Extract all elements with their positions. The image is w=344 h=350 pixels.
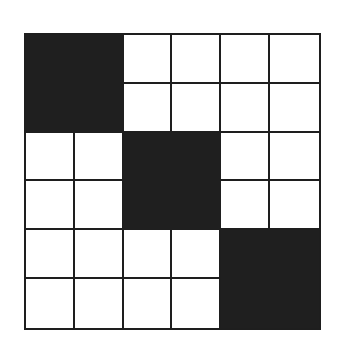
grid-cell	[26, 181, 75, 230]
grid-cell	[172, 35, 221, 84]
grid-cell	[270, 84, 319, 133]
grid-cell	[124, 35, 173, 84]
grid-cell	[221, 181, 270, 230]
grid-cell	[124, 279, 173, 328]
grid-cell	[26, 279, 75, 328]
filled-block	[124, 133, 222, 231]
grid-cell	[124, 230, 173, 279]
grid-cell	[221, 84, 270, 133]
grid-cell	[221, 133, 270, 182]
grid-cell	[75, 230, 124, 279]
grid-cell	[270, 133, 319, 182]
grid-cell	[172, 230, 221, 279]
grid-cell	[26, 133, 75, 182]
grid-cell	[124, 84, 173, 133]
grid-cell	[75, 181, 124, 230]
diagram-canvas	[0, 0, 344, 350]
grid-6x6	[24, 33, 321, 330]
grid-cell	[221, 35, 270, 84]
filled-block	[26, 35, 124, 133]
grid-cell	[270, 35, 319, 84]
grid-cell	[172, 84, 221, 133]
filled-block	[221, 230, 319, 328]
grid-cell	[75, 279, 124, 328]
grid-cell	[172, 279, 221, 328]
grid-cell	[75, 133, 124, 182]
grid-cell	[270, 181, 319, 230]
grid-cell	[26, 230, 75, 279]
